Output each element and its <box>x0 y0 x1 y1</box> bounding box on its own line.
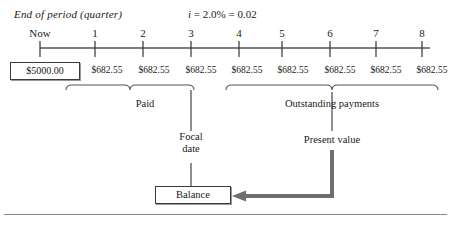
outstanding-payments-label: Outstanding payments <box>262 98 402 109</box>
paid-label: Paid <box>100 98 190 109</box>
payment-amount-8: $682.55 <box>409 65 451 75</box>
payment-amount-5: $682.55 <box>270 65 316 75</box>
payment-amount-7: $682.55 <box>363 65 409 75</box>
bottom-divider <box>4 214 447 215</box>
present-value-arrow-head <box>232 191 246 202</box>
outstanding-brace <box>226 85 438 90</box>
focal-date-label-line2: date <box>161 143 221 155</box>
balance-box: Balance <box>155 186 231 204</box>
present-value-arrow-line <box>244 150 332 196</box>
payment-amount-4: $682.55 <box>224 65 270 75</box>
paid-brace <box>66 85 194 90</box>
payment-amount-2: $682.55 <box>131 65 177 75</box>
present-value-label: Present value <box>287 134 377 145</box>
payment-amount-3: $682.55 <box>178 65 224 75</box>
payment-amount-1: $682.55 <box>84 65 130 75</box>
timeline-diagram: End of period (quarter) i = 2.0% = 0.02 … <box>0 0 451 225</box>
principal-amount-box: $5000.00 <box>10 62 80 80</box>
focal-date-label-line1: Focal <box>161 131 221 143</box>
payment-amount-6: $682.55 <box>317 65 363 75</box>
focal-date-label: Focal date <box>161 131 221 155</box>
